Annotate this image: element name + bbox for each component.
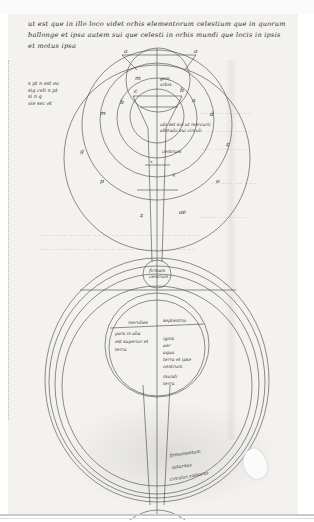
- label-z: z: [139, 211, 144, 218]
- label-a-top-right: a: [194, 47, 198, 54]
- label-a-top-left: a: [124, 47, 128, 54]
- inner-note: centrum: [162, 149, 181, 154]
- hemisphere-left-label: meridies: [128, 320, 149, 325]
- center-note-2: orbis: [160, 82, 172, 87]
- ring-label-2: saturnus: [171, 462, 192, 470]
- label-a-right: a: [192, 96, 196, 103]
- lower-note-1: ubi est sol ut mercurii: [160, 122, 211, 127]
- label-x: x: [150, 159, 153, 164]
- label-o: o: [216, 177, 220, 184]
- ring-label-1: firmamentum: [168, 449, 200, 458]
- right-note-4: terra et ipse: [163, 357, 191, 362]
- left-note-1: pars in alia: [115, 331, 141, 336]
- top-circle-label-2: centrum: [149, 274, 168, 279]
- top-circle-label-1: firmam: [148, 268, 165, 273]
- cosmological-diagrams: a a m c b b a m d gem orbis ubi est sol …: [0, 0, 314, 522]
- hemisphere-right-label: septentrio: [163, 318, 187, 323]
- left-note-3: terra: [115, 347, 127, 352]
- label-c: c: [134, 87, 138, 94]
- lower-diagram: [45, 258, 269, 520]
- label-q: q: [172, 172, 175, 177]
- left-note-2: est superior et: [115, 339, 149, 344]
- right-note-6: mundi: [163, 374, 178, 379]
- right-note-2: aer: [163, 343, 171, 348]
- center-note-1: gem: [160, 76, 170, 81]
- label-m-left: m: [100, 109, 106, 116]
- label-ae: ae: [179, 208, 187, 215]
- right-note-7: terra: [163, 381, 175, 386]
- label-p: p: [100, 177, 104, 185]
- label-b-left: b: [120, 98, 124, 105]
- label-g: g: [80, 147, 84, 155]
- right-note-3: aqua: [163, 350, 174, 355]
- scan-bottom-edge: [0, 514, 314, 516]
- right-note-5: centrum: [163, 364, 182, 369]
- right-note-1: ignis: [163, 336, 175, 341]
- label-d-right: d: [210, 110, 214, 117]
- label-m: m: [135, 74, 141, 81]
- upper-diagram: [64, 48, 250, 262]
- lower-note-2: altitudo sui circuli: [160, 128, 202, 133]
- label-b-right: b: [180, 86, 184, 93]
- scan-bottom-edge-2: [0, 518, 314, 519]
